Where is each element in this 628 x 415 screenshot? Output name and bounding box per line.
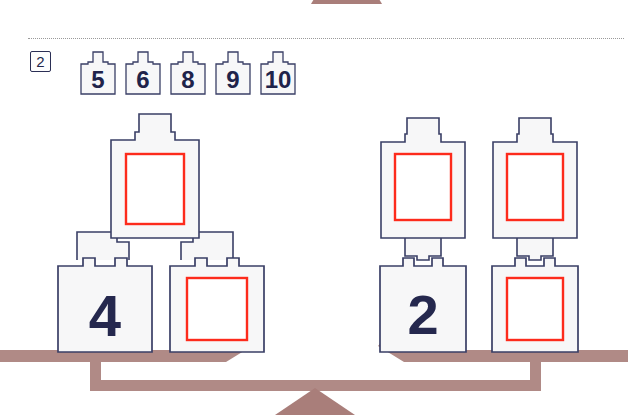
exercise-separator (28, 38, 624, 39)
worksheet-page: 2 5 6 8 9 10 (0, 0, 628, 415)
number-card-label: 5 (79, 68, 117, 92)
number-card-5[interactable]: 5 (79, 50, 117, 96)
number-card-9[interactable]: 9 (214, 50, 252, 96)
tile-right-col2-top[interactable] (489, 116, 581, 240)
tile-right-col1-bottom[interactable]: 2 (377, 256, 469, 354)
tile-left-bottom-right[interactable] (167, 256, 267, 354)
previous-exercise-balance (160, 0, 520, 6)
tile-right-col1-top[interactable] (377, 116, 469, 240)
number-card-6[interactable]: 6 (124, 50, 162, 96)
number-card-8[interactable]: 8 (169, 50, 207, 96)
number-card-label: 8 (169, 68, 207, 92)
exercise-number-badge: 2 (30, 51, 51, 72)
number-card-label: 6 (124, 68, 162, 92)
tile-left-top[interactable] (105, 112, 205, 240)
number-card-label: 9 (214, 68, 252, 92)
tile-right-col2-bottom[interactable] (489, 256, 581, 354)
tile-left-bottom-left[interactable]: 4 (55, 256, 155, 354)
number-card-10[interactable]: 10 (259, 50, 297, 96)
number-card-label: 10 (259, 68, 297, 92)
